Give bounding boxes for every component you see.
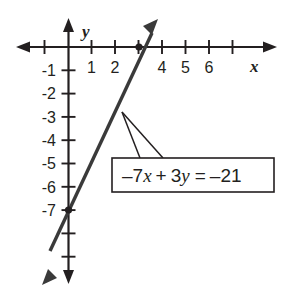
y-tick-label-neg6: -6	[42, 179, 56, 196]
y-axis-up-arrowhead	[63, 18, 74, 32]
equation-equals: =	[195, 165, 206, 186]
y-axis-label: y	[80, 22, 90, 41]
y-tick-label-neg7: -7	[42, 202, 56, 219]
x-axis-left-arrowhead	[16, 42, 30, 53]
plotted-line	[50, 33, 152, 251]
y-axis-down-arrowhead	[63, 270, 74, 284]
callout-leader-lines	[122, 112, 163, 158]
x-tick-label-6: 6	[205, 59, 214, 76]
x-tick-label-2: 2	[111, 59, 120, 76]
y-intercept-point	[65, 206, 72, 213]
equation-coef-x: –7	[122, 165, 143, 186]
x-tick-label-1: 1	[87, 59, 96, 76]
x-axis-label: x	[249, 57, 259, 76]
x-tick-label-5: 5	[181, 59, 190, 76]
x-tick-label-4: 4	[158, 59, 167, 76]
leader-line-left	[122, 112, 140, 158]
plotted-line-group	[42, 19, 158, 285]
plotted-line-lower-arrowhead	[42, 269, 57, 285]
equation-label: –7x+3y=–21	[122, 165, 242, 186]
y-tick-label-neg2: -2	[42, 85, 56, 102]
equation-plus: +	[156, 165, 167, 186]
equation-coef-y: 3	[171, 165, 182, 186]
x-axis-right-arrowhead	[263, 42, 277, 53]
figure-canvas: y x 1 2 4 5 6 -1 -2 -3 -4 -5 -6 -7 –7x+3…	[0, 0, 292, 293]
x-intercept-point	[135, 43, 142, 50]
y-tick-label-neg1: -1	[42, 62, 56, 79]
y-tick-label-neg3: -3	[42, 109, 56, 126]
equation-var-y: y	[179, 165, 190, 186]
equation-var-x: x	[142, 165, 152, 186]
y-tick-label-neg5: -5	[42, 155, 56, 172]
y-axis-group	[62, 18, 76, 284]
equation-rhs: –21	[210, 165, 242, 186]
y-tick-label-neg4: -4	[42, 132, 56, 149]
coordinate-graph: y x 1 2 4 5 6 -1 -2 -3 -4 -5 -6 -7 –7x+3…	[0, 0, 292, 293]
leader-line-right	[122, 112, 163, 158]
plotted-line-upper-arrowhead	[143, 19, 158, 35]
